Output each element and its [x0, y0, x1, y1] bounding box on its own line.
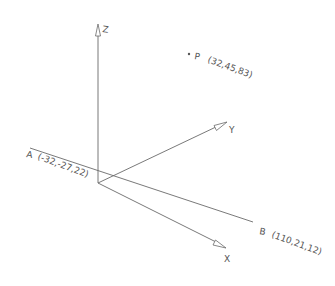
z-arrow-icon — [96, 24, 101, 36]
point-a: A (-32,-27,22) — [26, 149, 90, 179]
y-arrow-icon — [214, 122, 227, 131]
point-a-name: A — [26, 149, 35, 160]
y-axis-label: Y — [228, 125, 235, 135]
x-arrow-icon — [213, 240, 226, 248]
point-p: P (32,45,83) — [188, 51, 254, 80]
point-b-name: B — [259, 226, 267, 237]
point-p-coords: (32,45,83) — [206, 54, 254, 80]
z-axis: Z — [96, 24, 110, 183]
point-p-name: P — [194, 51, 202, 62]
x-axis: X — [98, 183, 230, 264]
diagram-canvas: Z Y X A (-32,-27,22) B (110,21,12) P (32… — [0, 0, 335, 286]
point-b-coords: (110,21,12) — [270, 229, 323, 256]
y-axis: Y — [98, 122, 235, 183]
z-axis-label: Z — [102, 24, 110, 35]
point-b: B (110,21,12) — [259, 226, 324, 257]
point-p-dot — [188, 53, 190, 55]
x-axis-label: X — [224, 254, 230, 264]
